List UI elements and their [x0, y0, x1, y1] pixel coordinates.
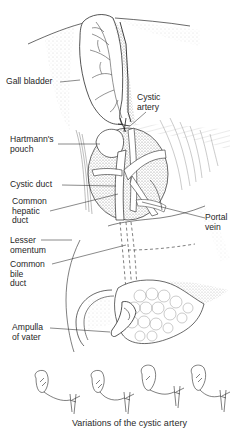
cystic-artery-variations — [35, 365, 230, 414]
label-cystic-artery: Cystic artery — [137, 93, 160, 112]
label-gall-bladder: Gall bladder — [6, 77, 52, 87]
label-common-bile-duct: Common bile duct — [10, 260, 45, 289]
duodenum — [76, 290, 114, 346]
anatomical-illustration: Gall bladder Cystic artery Hartmann's po… — [0, 0, 242, 434]
label-common-hepatic-duct: Common hepatic duct — [12, 197, 47, 226]
gall-bladder — [80, 15, 136, 125]
label-cystic-duct: Cystic duct — [10, 180, 52, 190]
label-lesser-omentum: Lesser omentum — [10, 236, 46, 255]
label-ampulla-of-vater: Ampulla of vater — [12, 323, 43, 342]
figure-caption: Variations of the cystic artery — [72, 418, 187, 428]
label-hartmanns-pouch: Hartmann's pouch — [10, 135, 54, 154]
label-portal-vein: Portal vein — [205, 213, 227, 232]
